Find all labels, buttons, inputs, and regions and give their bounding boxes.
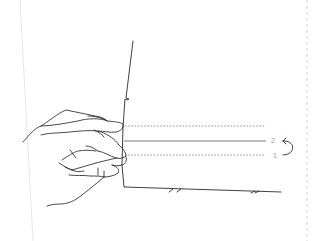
fold-arrow-icon [283,138,293,155]
paper-sheet [122,41,281,193]
folding-diagram: 2 1 [0,0,312,241]
step-one-label: 1 [273,152,277,159]
fold-lines [124,126,266,155]
left-page-edge [20,0,33,241]
hand-illustration [23,110,126,206]
step-two-label: 2 [271,137,275,144]
